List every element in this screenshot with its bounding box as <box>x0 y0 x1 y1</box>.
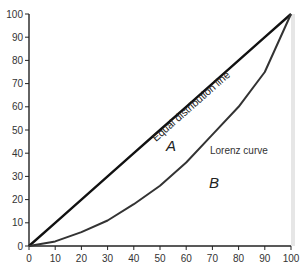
lorenz-curve-label: Lorenz curve <box>210 145 268 156</box>
y-tick-label: 100 <box>6 9 23 20</box>
area-b-label: B <box>209 174 219 191</box>
x-tick-label: 20 <box>76 253 88 264</box>
equal-line-label: Equal distribution line <box>149 68 232 143</box>
x-tick-label: 40 <box>128 253 140 264</box>
area-a-label: A <box>165 137 176 154</box>
y-tick-label: 40 <box>12 148 24 159</box>
x-tick-label: 100 <box>283 253 300 264</box>
x-tick-label: 0 <box>26 253 32 264</box>
y-tick-label: 30 <box>12 171 24 182</box>
y-tick-label: 70 <box>12 78 24 89</box>
x-tick-label: 70 <box>207 253 219 264</box>
y-tick-label: 0 <box>17 241 23 252</box>
x-tick-label: 60 <box>181 253 193 264</box>
y-tick-label: 80 <box>12 55 24 66</box>
y-tick-label: 90 <box>12 32 24 43</box>
y-tick-label: 60 <box>12 101 24 112</box>
y-tick-label: 10 <box>12 217 24 228</box>
y-tick-label: 20 <box>12 194 24 205</box>
x-axis: 0102030405060708090100 <box>26 246 300 264</box>
x-tick-label: 30 <box>102 253 114 264</box>
x-tick-label: 50 <box>154 253 166 264</box>
lorenz-chart: 0102030405060708090100 01020304050607080… <box>0 0 305 269</box>
y-tick-label: 50 <box>12 125 24 136</box>
y-axis: 0102030405060708090100 <box>6 9 29 252</box>
x-tick-label: 10 <box>50 253 62 264</box>
x-tick-label: 90 <box>259 253 271 264</box>
plot-frame-edge <box>291 14 295 246</box>
x-tick-label: 80 <box>233 253 245 264</box>
